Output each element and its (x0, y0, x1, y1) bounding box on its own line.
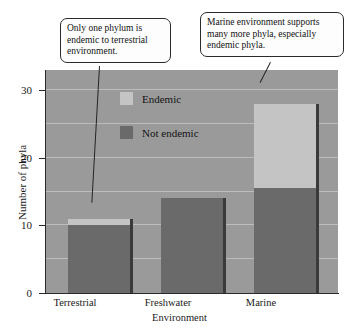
y-tickmark-0 (39, 293, 45, 294)
plot-area: Endemic Not endemic (46, 70, 338, 293)
y-axis-label: Number of phyla (16, 145, 28, 220)
bar-marine[interactable] (254, 104, 316, 293)
x-axis-label: Environment (0, 312, 359, 323)
x-axis-line (45, 293, 339, 294)
y-tickmark-30 (39, 90, 45, 91)
bar-edge-shadow (223, 198, 226, 293)
gridline-30 (46, 89, 338, 90)
bar-segment-endemic (254, 104, 316, 189)
legend-item-endemic[interactable]: Endemic (120, 92, 181, 105)
y-tick-label-30: 30 (6, 85, 32, 95)
callout-terrestrial: Only one phylum is endemic to terrestria… (60, 18, 171, 63)
y-tickmark-20 (39, 158, 45, 159)
legend-swatch-endemic (120, 92, 133, 105)
callout-marine: Marine environment supports many more ph… (200, 12, 344, 57)
chart-figure: Endemic Not endemic 0 10 20 30 Number of… (0, 0, 359, 329)
x-tick-label-freshwater: Freshwater (122, 297, 214, 308)
legend-label-endemic: Endemic (142, 93, 181, 105)
bar-edge-shadow (130, 219, 133, 293)
bar-segment-endemic (68, 219, 130, 226)
y-axis-line (45, 70, 46, 294)
bar-segment-not-endemic (254, 188, 316, 293)
x-tick-label-terrestrial: Terrestrial (29, 297, 121, 308)
x-tick-label-marine: Marine (215, 297, 307, 308)
bar-terrestrial[interactable] (68, 219, 130, 293)
y-tick-label-10: 10 (6, 220, 32, 230)
bar-segment-not-endemic (68, 225, 130, 293)
y-tickmark-10 (39, 225, 45, 226)
legend-label-not-endemic: Not endemic (142, 127, 199, 139)
bar-freshwater[interactable] (161, 198, 223, 293)
bar-segment-not-endemic (161, 198, 223, 293)
legend-swatch-not-endemic (120, 126, 133, 139)
bar-edge-shadow (316, 104, 319, 293)
legend-item-not-endemic[interactable]: Not endemic (120, 126, 199, 139)
